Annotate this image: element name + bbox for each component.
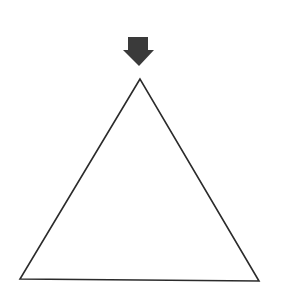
diagram-canvas xyxy=(0,0,285,304)
